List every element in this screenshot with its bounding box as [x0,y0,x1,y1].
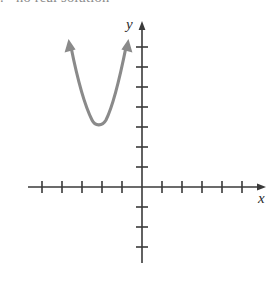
graph-figure: .no real solution [0,0,276,285]
y-axis-label: y [126,16,133,33]
x-axis-label: x [258,190,265,207]
y-axis-arrowhead [139,21,146,30]
parabola-right-arrowhead [121,39,132,53]
coordinate-plane [0,0,276,285]
parabola-curve [71,47,126,125]
parabola-left-arrowhead [65,39,76,53]
